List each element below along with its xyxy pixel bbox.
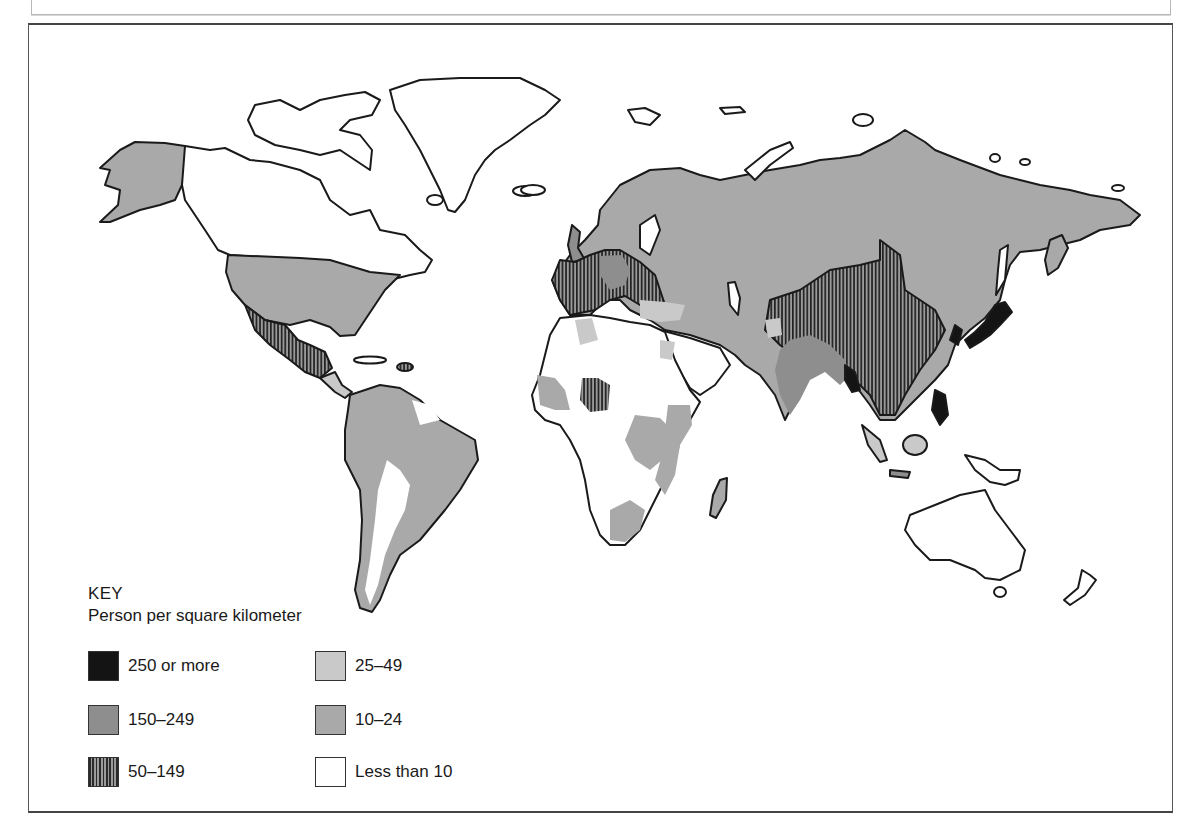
region-borneo bbox=[903, 435, 927, 455]
legend-item-50-149: 50–149 bbox=[88, 756, 185, 788]
legend-label: Less than 10 bbox=[355, 762, 452, 782]
swatch-150-249 bbox=[88, 705, 119, 735]
swatch-less-than-10 bbox=[315, 757, 346, 787]
region-sumatra bbox=[862, 425, 887, 462]
legend-subtitle: Person per square kilometer bbox=[88, 605, 302, 627]
legend-label: 10–24 bbox=[355, 710, 402, 730]
legend-title: KEY bbox=[88, 584, 302, 604]
legend-item-25-49: 25–49 bbox=[315, 650, 402, 682]
swatch-25-49 bbox=[315, 651, 346, 681]
region-tasmania bbox=[994, 587, 1006, 597]
region-new-zealand bbox=[1064, 570, 1096, 605]
region-philippines bbox=[932, 390, 948, 425]
region-madagascar bbox=[710, 478, 727, 518]
region-alaska bbox=[100, 142, 188, 222]
region-arctic-islands bbox=[248, 92, 380, 170]
swatch-50-149 bbox=[88, 757, 119, 787]
region-australia bbox=[905, 490, 1025, 580]
legend-item-less-than-10: Less than 10 bbox=[315, 756, 452, 788]
region-new-guinea bbox=[965, 455, 1020, 485]
legend-label: 50–149 bbox=[128, 762, 185, 782]
legend-item-10-24: 10–24 bbox=[315, 704, 402, 736]
legend-label: 250 or more bbox=[128, 656, 220, 676]
region-java bbox=[890, 470, 910, 478]
swatch-10-24 bbox=[315, 705, 346, 735]
legend-grid: 250 or more 150–249 50–149 25–49 10–24 L… bbox=[88, 650, 528, 800]
region-central-america bbox=[320, 372, 352, 398]
legend-label: 25–49 bbox=[355, 656, 402, 676]
swatch-250-plus bbox=[88, 651, 119, 681]
region-iceland bbox=[521, 185, 545, 195]
legend-item-250-plus: 250 or more bbox=[88, 650, 220, 682]
map-legend: KEY Person per square kilometer 250 or m… bbox=[88, 584, 302, 627]
region-south-america bbox=[345, 385, 478, 612]
legend-label: 150–249 bbox=[128, 710, 194, 730]
region-central-asia-light bbox=[765, 318, 782, 338]
legend-item-150-249: 150–249 bbox=[88, 704, 194, 736]
region-cuba bbox=[354, 357, 386, 364]
region-hispaniola bbox=[397, 363, 413, 371]
